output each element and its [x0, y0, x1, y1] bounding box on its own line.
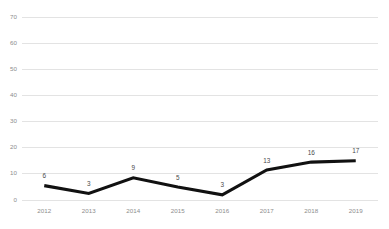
x-tick-label-2015: 2015 — [171, 207, 185, 214]
line-chart: 010203040506070 201220132014201520162017… — [0, 0, 389, 229]
y-tick-label-40: 40 — [10, 91, 17, 98]
y-tick-label-30: 30 — [10, 117, 17, 124]
x-tick-label-2019: 2019 — [349, 207, 363, 214]
data-label-2013: 3 — [87, 180, 91, 187]
data-label-2016: 3 — [220, 181, 224, 188]
data-label-2017: 13 — [263, 157, 271, 164]
x-tick-label-2012: 2012 — [37, 207, 51, 214]
y-tick-label-70: 70 — [10, 13, 17, 20]
x-tick-label-2014: 2014 — [126, 207, 140, 214]
y-tick-label-60: 60 — [10, 39, 17, 46]
data-label-2015: 5 — [176, 174, 180, 181]
y-tick-label-50: 50 — [10, 65, 17, 72]
chart-canvas: 010203040506070 201220132014201520162017… — [0, 0, 389, 229]
x-tick-label-2018: 2018 — [304, 207, 318, 214]
data-label-2019: 17 — [352, 147, 360, 154]
x-tick-label-2016: 2016 — [215, 207, 229, 214]
y-tick-label-0: 0 — [14, 196, 18, 203]
y-tick-label-20: 20 — [10, 143, 17, 150]
data-label-2018: 16 — [308, 149, 316, 156]
y-tick-label-10: 10 — [10, 169, 17, 176]
chart-background — [0, 0, 389, 229]
x-tick-label-2013: 2013 — [82, 207, 96, 214]
x-tick-label-2017: 2017 — [260, 207, 274, 214]
data-label-2014: 9 — [131, 164, 135, 171]
data-label-2012: 6 — [42, 172, 46, 179]
